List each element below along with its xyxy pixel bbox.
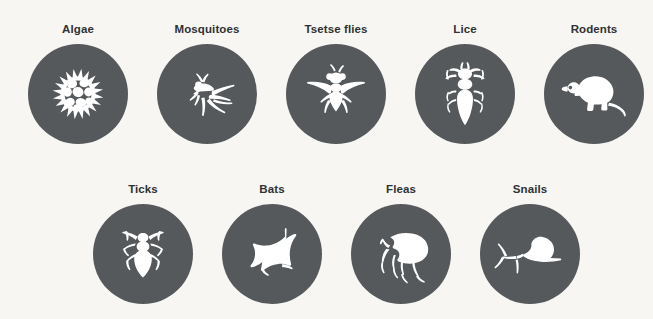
vector-label: Fleas (336, 182, 466, 196)
vector-disc (544, 44, 644, 144)
vector-disc (480, 204, 580, 304)
vector-label: Rodents (529, 22, 653, 36)
vector-disc (286, 44, 386, 144)
vector-label: Mosquitoes (142, 22, 272, 36)
louse-icon (436, 59, 494, 129)
vector-item-snails[interactable]: Snails (465, 182, 595, 304)
vector-disc (28, 44, 128, 144)
vector-item-mosquitoes[interactable]: Mosquitoes (142, 22, 272, 144)
vector-disc (415, 44, 515, 144)
snail-icon (494, 230, 566, 278)
vector-label: Bats (207, 182, 337, 196)
vector-item-rodents[interactable]: Rodents (529, 22, 653, 144)
tick-icon (110, 221, 176, 287)
vector-disc (93, 204, 193, 304)
vector-item-tsetse-flies[interactable]: Tsetse flies (271, 22, 401, 144)
tsetse-fly-icon (301, 62, 371, 126)
vector-label: Algae (13, 22, 143, 36)
vector-disc (351, 204, 451, 304)
vector-item-fleas[interactable]: Fleas (336, 182, 466, 304)
vector-item-lice[interactable]: Lice (400, 22, 530, 144)
vector-disc (222, 204, 322, 304)
vector-disc (157, 44, 257, 144)
algae-icon (46, 62, 110, 126)
vector-label: Ticks (78, 182, 208, 196)
bat-icon (236, 225, 308, 283)
rodent-icon (557, 69, 631, 119)
vector-icon-board: Algae Mosquitoes Tsetse flies Lice (0, 0, 653, 319)
vector-label: Snails (465, 182, 595, 196)
vector-label: Tsetse flies (271, 22, 401, 36)
vector-item-algae[interactable]: Algae (13, 22, 143, 144)
vector-label: Lice (400, 22, 530, 36)
vector-item-bats[interactable]: Bats (207, 182, 337, 304)
flea-icon (368, 223, 434, 285)
vector-item-ticks[interactable]: Ticks (78, 182, 208, 304)
mosquito-icon (173, 64, 241, 124)
